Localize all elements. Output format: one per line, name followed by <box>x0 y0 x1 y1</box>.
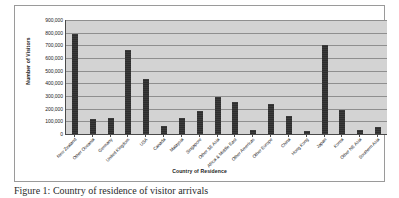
figure-container: Number of Visitors 900,000800,000700,000… <box>0 0 399 198</box>
bar[interactable] <box>90 119 96 134</box>
bar-slot <box>191 20 209 134</box>
y-axis-tick-labels: 900,000800,000700,000600,000500,000400,0… <box>31 20 63 134</box>
bar-slot <box>155 20 173 134</box>
x-label-slot: Other Oceania <box>83 137 101 169</box>
bar[interactable] <box>322 45 328 134</box>
bar[interactable] <box>108 118 114 134</box>
x-label-slot: Canada <box>154 137 172 169</box>
y-axis-tick-label: 100,000 <box>45 118 63 124</box>
x-axis-category-labels: New ZealandOther OceaniaGermanyUnited Ki… <box>65 137 386 169</box>
bar-slot <box>298 20 316 134</box>
x-axis-category-label: Korea <box>333 137 345 149</box>
x-label-slot: Japan <box>315 137 333 169</box>
bar-slot <box>262 20 280 134</box>
x-axis-category-label: Japan <box>315 137 327 149</box>
bar-series <box>66 20 387 134</box>
x-label-slot: Hong Kong <box>297 137 315 169</box>
bar[interactable] <box>125 50 131 134</box>
chart-frame: Number of Visitors 900,000800,000700,000… <box>14 5 385 182</box>
bar-slot <box>209 20 227 134</box>
y-axis-tick-label: 700,000 <box>45 42 63 48</box>
y-axis-tick-label: 800,000 <box>45 30 63 36</box>
bar-slot <box>333 20 351 134</box>
bar-slot <box>173 20 191 134</box>
bar[interactable] <box>179 118 185 134</box>
y-axis-tick-label: 0 <box>60 131 63 137</box>
bar-slot <box>244 20 262 134</box>
bar-slot <box>369 20 387 134</box>
bar-slot <box>102 20 120 134</box>
bar[interactable] <box>268 104 274 134</box>
bar[interactable] <box>215 97 221 134</box>
figure-caption: Figure 1: Country of residence of visito… <box>14 185 385 196</box>
bar-slot <box>351 20 369 134</box>
x-label-slot: United Kingdom <box>118 137 136 169</box>
x-label-slot: Other Europe <box>261 137 279 169</box>
bar[interactable] <box>161 126 167 134</box>
x-axis-category-label: China <box>280 137 292 149</box>
bar-slot <box>137 20 155 134</box>
bar-slot <box>280 20 298 134</box>
x-axis-category-label: Canada <box>152 137 166 151</box>
bar-slot <box>66 20 84 134</box>
bar[interactable] <box>197 111 203 134</box>
y-axis-tick-label: 200,000 <box>45 106 63 112</box>
y-axis-tick-label: 900,000 <box>45 17 63 23</box>
bar-slot <box>226 20 244 134</box>
bar[interactable] <box>232 102 238 134</box>
bar[interactable] <box>72 34 78 134</box>
x-axis-category-label: USA <box>139 137 149 147</box>
bar[interactable] <box>143 79 149 134</box>
bar-slot <box>84 20 102 134</box>
plot-area <box>65 20 387 135</box>
y-axis-tick-label: 500,000 <box>45 68 63 74</box>
bar-slot <box>316 20 334 134</box>
y-axis-tick-label: 300,000 <box>45 93 63 99</box>
bar[interactable] <box>339 110 345 134</box>
bar[interactable] <box>286 116 292 134</box>
bar[interactable] <box>375 127 381 134</box>
x-axis-title: Country of Residence <box>15 168 384 174</box>
bar-slot <box>119 20 137 134</box>
y-axis-tick-label: 400,000 <box>45 80 63 86</box>
x-label-slot: Southern Asia <box>368 137 386 169</box>
y-axis-tick-label: 600,000 <box>45 55 63 61</box>
x-label-slot: USA <box>136 137 154 169</box>
